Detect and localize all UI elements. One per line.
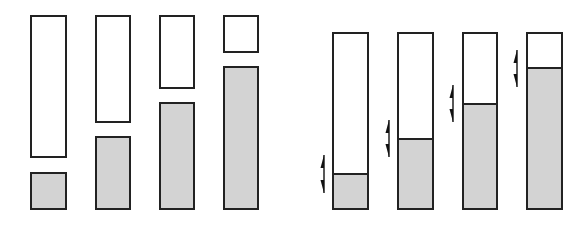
filled-block <box>96 137 130 209</box>
double-headed-vertical-arrow-icon <box>450 85 454 122</box>
double-headed-vertical-arrow-icon <box>321 155 325 193</box>
empty-region <box>527 33 562 68</box>
empty-block <box>96 16 130 122</box>
left-group-separated-blocks <box>31 16 258 209</box>
separated-column-2 <box>96 16 130 209</box>
empty-block <box>160 16 194 88</box>
empty-region <box>333 33 368 174</box>
boundary-column-3 <box>450 33 498 209</box>
empty-block <box>224 16 258 52</box>
filled-region <box>527 68 562 209</box>
double-headed-vertical-arrow-icon <box>514 50 518 87</box>
double-headed-vertical-arrow-icon <box>386 120 390 157</box>
right-group-movable-boundary <box>321 33 563 209</box>
filled-block <box>224 67 258 209</box>
filled-region <box>398 139 433 209</box>
boundary-column-1 <box>321 33 369 209</box>
filled-region <box>463 104 497 209</box>
separated-column-3 <box>160 16 194 209</box>
boundary-column-4 <box>514 33 563 209</box>
filled-region <box>333 174 368 209</box>
diagram-canvas <box>0 0 587 228</box>
empty-block <box>31 16 66 157</box>
empty-region <box>398 33 433 139</box>
boundary-column-2 <box>386 33 434 209</box>
empty-region <box>463 33 497 104</box>
filled-block <box>31 173 66 209</box>
separated-column-1 <box>31 16 66 209</box>
separated-column-4 <box>224 16 258 209</box>
filled-block <box>160 103 194 209</box>
